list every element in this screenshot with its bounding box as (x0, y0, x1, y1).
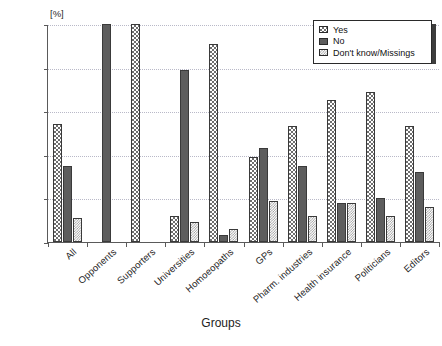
bar-chart: [%] 020406080100 AllOpponentsSupportersU… (0, 0, 442, 346)
bar (180, 70, 189, 242)
y-axis-unit-label: [%] (50, 8, 64, 19)
bar (170, 216, 179, 242)
bar (209, 44, 218, 242)
bar (298, 166, 307, 242)
bar (405, 126, 414, 242)
bar-group (87, 25, 126, 242)
x-axis-label: Supporters (114, 246, 157, 286)
chart-legend: YesNoDon't know/Missings (313, 20, 432, 64)
bar (366, 92, 375, 242)
bar (73, 218, 82, 242)
bar (376, 198, 385, 242)
bar (337, 203, 346, 242)
legend-label: No (333, 36, 345, 46)
bar (386, 216, 395, 242)
x-axis-label: GPs (253, 246, 274, 267)
bar-group (165, 25, 204, 242)
bar (269, 201, 278, 242)
x-axis-label: Opponents (75, 246, 118, 286)
bar (190, 222, 199, 242)
bar (219, 235, 228, 242)
bar (327, 100, 336, 242)
bar (259, 148, 268, 242)
bar-group (204, 25, 243, 242)
bar (347, 203, 356, 242)
bar-group (48, 25, 87, 242)
bar-group (126, 25, 165, 242)
x-axis-labels: AllOpponentsSupportersUniversitiesHomoeo… (47, 244, 439, 314)
x-axis-label: Editors (402, 246, 432, 274)
legend-item: Yes (319, 24, 426, 36)
legend-swatch-icon (319, 26, 328, 33)
legend-item: No (319, 36, 426, 48)
bar (63, 166, 72, 242)
bar (229, 229, 238, 242)
bar (249, 157, 258, 242)
bar-group (243, 25, 282, 242)
legend-label: Yes (333, 25, 348, 35)
legend-swatch-icon (319, 38, 328, 45)
bar (102, 24, 111, 242)
x-axis-label: Politicians (352, 246, 392, 284)
legend-label: Don't know/Missings (333, 48, 415, 58)
x-axis-title: Groups (0, 316, 442, 330)
bar (53, 124, 62, 242)
legend-item: Don't know/Missings (319, 47, 426, 59)
bar (131, 24, 140, 242)
bar (308, 216, 317, 242)
bar (415, 172, 424, 242)
bar (425, 207, 434, 242)
x-tick-mark (439, 242, 440, 247)
bar (288, 126, 297, 242)
legend-swatch-icon (319, 49, 328, 56)
x-axis-label: All (63, 246, 78, 261)
